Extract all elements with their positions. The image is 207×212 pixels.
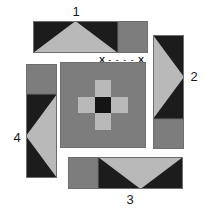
- center-cell-r1c1: [61, 63, 79, 81]
- center-cell-r4c1: [61, 113, 79, 131]
- label-1: 1: [68, 5, 84, 18]
- label-3: 3: [122, 193, 138, 206]
- label-4: 4: [9, 131, 25, 144]
- center-cell-r3c1: [61, 97, 79, 115]
- center-cell-r4c2: [78, 113, 96, 131]
- center-cell-r2c2: [78, 80, 96, 98]
- center-cell-r2c4: [111, 80, 129, 98]
- center-cell-r2c3: [95, 80, 113, 98]
- center-cell-r3c5: [128, 97, 145, 115]
- center-cell-r4c4: [111, 113, 129, 131]
- center-cell-r5c4: [111, 130, 129, 147]
- center-cell-r1c3: [95, 63, 113, 81]
- center-cell-r2c1: [61, 80, 79, 98]
- center-cell-r5c3: [95, 130, 113, 147]
- center-cell-r4c3: [95, 113, 113, 131]
- center-block[interactable]: [61, 63, 145, 147]
- strip-right-graphic: [153, 35, 184, 149]
- label-2: 2: [186, 70, 202, 83]
- center-cell-r5c2: [78, 130, 96, 147]
- strip-right-piece-2[interactable]: [153, 35, 184, 149]
- quilt-diagram-canvas: 1 X - - - - X 2 4: [0, 0, 207, 212]
- center-cell-r5c1: [61, 130, 79, 147]
- center-cell-r4c5: [128, 113, 145, 131]
- strip-bottom-graphic: [68, 157, 183, 189]
- center-cell-r2c5: [128, 80, 145, 98]
- center-cell-r1c2: [78, 63, 96, 81]
- strip-left-piece-4[interactable]: [26, 64, 57, 178]
- center-cell-r3c4: [111, 97, 129, 115]
- center-cell-r3c2: [78, 97, 96, 115]
- center-cell-r3c3: [95, 97, 113, 115]
- center-cell-r5c5: [128, 130, 145, 147]
- strip-top-graphic: [33, 21, 148, 53]
- strip-bottom-piece-3[interactable]: [68, 157, 183, 189]
- center-cell-r1c5: [128, 63, 145, 81]
- center-cell-r1c4: [111, 63, 129, 81]
- strip-left-graphic: [26, 64, 57, 178]
- strip-top-piece-1[interactable]: [33, 21, 148, 53]
